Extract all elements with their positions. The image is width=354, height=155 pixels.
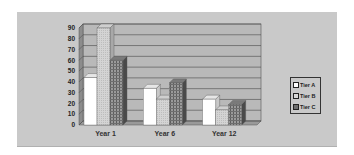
legend-item-tier-c: Tier C [293,103,316,111]
legend-item-tier-a: Tier A [293,81,315,89]
y-tick-label: 70 [68,46,76,53]
y-tick-label: 10 [68,110,76,117]
bar [169,79,186,125]
y-tick-label: 50 [68,67,76,74]
chart-legend: Tier A Tier B Tier C [290,77,321,114]
legend-label: Tier B [300,93,316,99]
bar-chart-plot: 0102030405060708090Year 1Year 6Year 12 [17,12,337,146]
y-tick-label: 20 [68,100,76,107]
legend-item-tier-b: Tier B [293,92,316,100]
y-tick-label: 60 [68,57,76,64]
bar [229,101,246,125]
chart-container: 0102030405060708090Year 1Year 6Year 12 T… [17,12,337,147]
bar [110,56,127,125]
legend-swatch-tier-a [293,82,299,88]
y-tick-label: 80 [68,35,76,42]
x-category-label: Year 12 [212,130,237,137]
y-tick-label: 30 [68,89,76,96]
x-category-label: Year 6 [155,130,176,137]
legend-label: Tier A [300,82,315,88]
y-tick-label: 0 [71,121,75,128]
legend-swatch-tier-c [293,104,299,110]
y-tick-label: 90 [68,24,76,31]
y-tick-label: 40 [68,78,76,85]
legend-label: Tier C [300,104,316,110]
x-category-label: Year 1 [95,130,116,137]
legend-swatch-tier-b [293,93,299,99]
